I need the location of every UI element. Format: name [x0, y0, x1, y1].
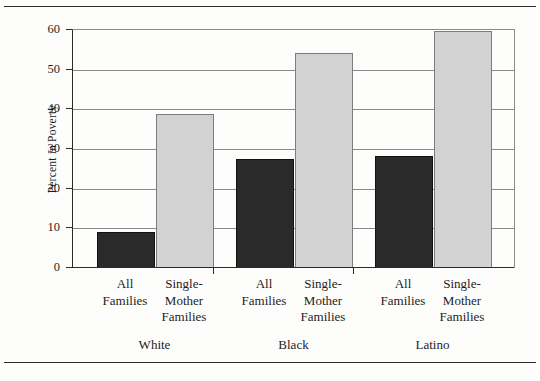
group-label-black: Black [224, 337, 364, 353]
figure-caption [6, 369, 406, 380]
y-tick-label-20: 20 [30, 182, 60, 195]
y-tick-label-30: 30 [30, 142, 60, 155]
bar-white-all-families [97, 232, 155, 268]
group-separator-tick-2 [353, 267, 354, 274]
y-tick-label-0: 0 [30, 261, 60, 274]
category-label-line: Families [138, 309, 230, 326]
top-divider-rule [4, 6, 536, 7]
bar-black-single-mother-families [295, 53, 353, 268]
bar-latino-single-mother-families [434, 31, 492, 268]
y-tick-label-40: 40 [30, 102, 60, 115]
category-label-line: Mother [416, 293, 508, 310]
bar-white-single-mother-families [156, 114, 214, 268]
category-label-line: Mother [277, 293, 369, 310]
group-label-white: White [85, 337, 225, 353]
category-label-line: Single- [138, 276, 230, 293]
x-axis-line [72, 267, 514, 268]
y-tick-label-60: 60 [30, 23, 60, 36]
category-label-line: Mother [138, 293, 230, 310]
category-label-black-single-mother-families: Single-MotherFamilies [277, 276, 369, 326]
poverty-bar-chart-figure: Percent in Poverty 0102030405060 AllFami… [0, 0, 540, 381]
category-label-latino-single-mother-families: Single-MotherFamilies [416, 276, 508, 326]
y-tick-label-50: 50 [30, 63, 60, 76]
bar-black-all-families [236, 159, 294, 268]
group-label-latino: Latino [363, 337, 503, 353]
plot-area [72, 29, 515, 268]
category-label-line: Single- [416, 276, 508, 293]
bar-latino-all-families [375, 156, 433, 268]
category-label-line: Families [416, 309, 508, 326]
category-label-white-single-mother-families: Single-MotherFamilies [138, 276, 230, 326]
group-separator-tick-1 [213, 267, 214, 274]
y-tick-label-10: 10 [30, 221, 60, 234]
category-label-line: Single- [277, 276, 369, 293]
category-label-line: Families [277, 309, 369, 326]
bottom-divider-rule [4, 362, 536, 363]
